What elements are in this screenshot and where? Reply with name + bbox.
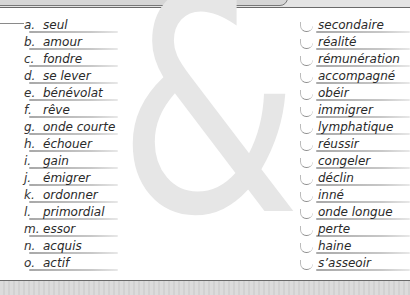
item-letter: c. (24, 52, 34, 66)
connecting-line (0, 23, 24, 24)
list-item[interactable]: perte (300, 221, 410, 238)
list-item[interactable]: immigrer (300, 102, 410, 119)
item-letter: f. (24, 103, 32, 117)
list-item[interactable]: s’asseoir (300, 255, 410, 272)
ampersand-watermark: & (118, 0, 300, 258)
item-letter: m. (24, 222, 40, 236)
list-item[interactable]: e.bénévolat (23, 85, 118, 102)
item-word: se lever (43, 69, 91, 83)
item-word: ordonner (43, 188, 98, 202)
list-item[interactable]: n.acquis (23, 238, 118, 255)
item-letter: o. (24, 256, 35, 270)
answer-slot-icon[interactable] (300, 56, 313, 66)
answer-slot-icon[interactable] (300, 209, 313, 219)
item-word: onde courte (43, 120, 115, 134)
list-item[interactable]: réussir (300, 136, 410, 153)
answer-slot-icon[interactable] (300, 243, 313, 253)
list-item[interactable]: l.primordial (23, 204, 118, 221)
right-word-list: secondaire réalité rémunération accompag… (300, 17, 410, 272)
item-letter: l. (24, 205, 31, 219)
item-letter: g. (24, 120, 35, 134)
list-item[interactable]: b.amour (23, 34, 118, 51)
item-word: seul (43, 18, 68, 32)
list-item[interactable]: rémunération (300, 51, 410, 68)
list-item[interactable]: f.rêve (23, 102, 118, 119)
item-word: bénévolat (43, 86, 103, 100)
item-word: réussir (318, 137, 359, 151)
item-word: haine (318, 239, 351, 253)
bottom-band (0, 281, 410, 295)
item-letter: e. (24, 86, 35, 100)
item-word: onde longue (318, 205, 393, 219)
item-word: primordial (43, 205, 105, 219)
list-item[interactable]: m.essor (23, 221, 118, 238)
list-item[interactable]: o.actif (23, 255, 118, 272)
item-word: échouer (43, 137, 92, 151)
list-item[interactable]: k.ordonner (23, 187, 118, 204)
item-word: secondaire (318, 18, 384, 32)
list-item[interactable]: h.échouer (23, 136, 118, 153)
list-item[interactable]: i.gain (23, 153, 118, 170)
item-word: accompagné (318, 69, 395, 83)
list-item[interactable]: déclin (300, 170, 410, 187)
item-letter: k. (24, 188, 35, 202)
item-word: amour (43, 35, 82, 49)
item-word: actif (43, 256, 69, 270)
answer-slot-icon[interactable] (300, 124, 313, 134)
item-word: rémunération (318, 52, 400, 66)
item-word: obéir (318, 86, 349, 100)
item-letter: a. (24, 18, 35, 32)
answer-slot-icon[interactable] (300, 39, 313, 49)
list-item[interactable]: j.émigrer (23, 170, 118, 187)
item-word: acquis (43, 239, 82, 253)
list-item[interactable]: secondaire (300, 17, 410, 34)
item-word: réalité (318, 35, 356, 49)
list-item[interactable]: réalité (300, 34, 410, 51)
item-letter: n. (24, 239, 35, 253)
answer-slot-icon[interactable] (300, 22, 313, 32)
answer-slot-icon[interactable] (300, 175, 313, 185)
list-item[interactable]: inné (300, 187, 410, 204)
list-item[interactable]: haine (300, 238, 410, 255)
item-letter: d. (24, 69, 35, 83)
item-letter: h. (24, 137, 35, 151)
answer-slot-icon[interactable] (300, 192, 313, 202)
list-item[interactable]: accompagné (300, 68, 410, 85)
list-item[interactable]: obéir (300, 85, 410, 102)
item-letter: j. (24, 171, 31, 185)
list-item[interactable]: lymphatique (300, 119, 410, 136)
left-word-list: a.seul b.amour c.fondre d.se lever e.bén… (23, 17, 118, 272)
list-item[interactable]: c.fondre (23, 51, 118, 68)
item-letter: i. (24, 154, 31, 168)
item-word: perte (318, 222, 350, 236)
list-item[interactable]: onde longue (300, 204, 410, 221)
item-letter: b. (24, 35, 35, 49)
item-word: immigrer (318, 103, 373, 117)
list-item[interactable]: congeler (300, 153, 410, 170)
item-word: congeler (318, 154, 370, 168)
item-word: s’asseoir (318, 256, 371, 270)
item-word: fondre (43, 52, 82, 66)
list-item[interactable]: a.seul (23, 17, 118, 34)
list-item[interactable]: d.se lever (23, 68, 118, 85)
item-word: essor (43, 222, 75, 236)
answer-slot-icon[interactable] (300, 260, 313, 270)
answer-slot-icon[interactable] (300, 107, 313, 117)
answer-slot-icon[interactable] (300, 141, 313, 151)
item-word: émigrer (43, 171, 90, 185)
answer-slot-icon[interactable] (300, 158, 313, 168)
item-word: inné (318, 188, 344, 202)
item-word: gain (43, 154, 69, 168)
list-item[interactable]: g.onde courte (23, 119, 118, 136)
item-word: lymphatique (318, 120, 393, 134)
item-word: rêve (43, 103, 70, 117)
answer-slot-icon[interactable] (300, 73, 313, 83)
answer-slot-icon[interactable] (300, 226, 313, 236)
answer-slot-icon[interactable] (300, 90, 313, 100)
item-word: déclin (318, 171, 354, 185)
